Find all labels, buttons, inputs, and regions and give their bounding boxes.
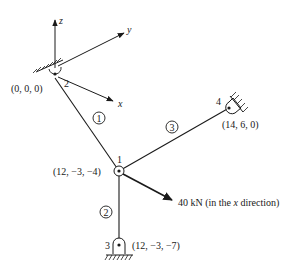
- truss-members: [55, 78, 229, 244]
- element-label-2: 2: [100, 206, 112, 218]
- node-4-coords: (14, 6, 0): [222, 119, 259, 131]
- node-1-label: 1: [117, 154, 122, 165]
- node-4-label: 4: [216, 96, 221, 107]
- node-2-coords: (0, 0, 0): [11, 83, 43, 95]
- svg-text:2: 2: [104, 207, 109, 218]
- node-3-label: 3: [105, 240, 110, 251]
- node-1-coords: (12, −3, −4): [53, 166, 101, 178]
- member-1: [55, 78, 119, 171]
- node-3-marker: [117, 243, 120, 246]
- truss-diagram: z y x 1 2 3 2 (0, 0, 0): [0, 0, 300, 276]
- svg-text:1: 1: [97, 113, 102, 124]
- y-axis-label: y: [126, 24, 132, 35]
- x-axis-label: x: [117, 98, 123, 109]
- y-axis: [58, 33, 124, 66]
- node-4-support: [226, 92, 248, 114]
- element-label-3: 3: [166, 121, 178, 133]
- node-2-label: 2: [64, 78, 69, 89]
- node-2-marker: [53, 72, 56, 75]
- z-axis-label: z: [58, 15, 63, 26]
- node-2-support: [33, 58, 63, 76]
- node-4-marker: [227, 106, 230, 109]
- load-arrow: [123, 174, 172, 200]
- svg-text:3: 3: [170, 122, 175, 133]
- element-label-1: 1: [93, 112, 105, 124]
- load-label: 40 kN (in the x direction): [178, 197, 279, 209]
- node-1: [114, 166, 124, 176]
- node-3-coords: (12, −3, −7): [132, 240, 180, 252]
- member-3: [119, 108, 229, 171]
